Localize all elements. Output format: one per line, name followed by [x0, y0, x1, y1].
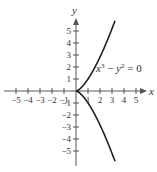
x-tick-label: 5: [134, 95, 139, 105]
x-tick-label: 3: [110, 95, 115, 105]
y-tick-label: 3: [67, 50, 72, 60]
y-axis-label: y: [71, 4, 77, 16]
y-tick-label: −4: [61, 134, 71, 144]
y-tick-label: 4: [67, 38, 72, 48]
y-axis-arrow-icon: [73, 18, 79, 25]
y-tick-label: −2: [61, 110, 71, 120]
y-tick: 2: [67, 62, 80, 72]
y-tick-label: 1: [67, 74, 72, 84]
x-tick-label: 2: [98, 95, 103, 105]
y-tick-label: −5: [61, 146, 71, 156]
y-tick-label: 5: [67, 26, 72, 36]
y-tick: 5: [67, 26, 80, 36]
x-tick-label: −5: [11, 95, 21, 105]
cusp-curve-chart: −5−4−3−2−112345 54321−1−2−3−4−5 x y x3 −…: [0, 0, 157, 172]
x-tick-label: −4: [23, 95, 33, 105]
x-tick-label: −2: [47, 95, 57, 105]
upper-branch-curve: [76, 21, 115, 91]
x-axis-label: x: [148, 85, 154, 97]
eq-minus: −: [104, 62, 116, 74]
x-axis-arrow-icon: [140, 88, 147, 94]
x-tick-label: −3: [35, 95, 45, 105]
y-tick-label: −3: [61, 122, 71, 132]
y-tick: 4: [67, 38, 80, 48]
eq-rest: = 0: [125, 62, 143, 74]
y-tick-label: 2: [67, 62, 72, 72]
y-tick: 3: [67, 50, 80, 60]
y-tick: 1: [67, 74, 80, 84]
x-tick-label: 4: [122, 95, 127, 105]
y-tick-label: −1: [61, 98, 71, 108]
equation-label: x3 − y2 = 0: [95, 62, 142, 74]
